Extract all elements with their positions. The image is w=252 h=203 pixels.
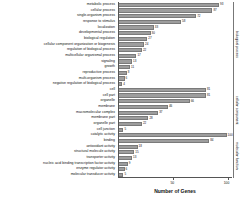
bar [118, 156, 132, 160]
bar-value-label: 13 [133, 60, 136, 63]
category-label: structural molecule activity [0, 150, 118, 154]
bar-value-label: 30 [152, 32, 155, 35]
bar [118, 48, 142, 52]
bar-value-label: 22 [143, 49, 146, 52]
bar-value-label: 13 [133, 156, 136, 159]
bar [118, 111, 158, 115]
bar [118, 150, 134, 154]
ontology-group: biological process [233, 2, 252, 87]
ontology-group-label: molecular function [235, 133, 238, 178]
bar-value-label: 11 [131, 66, 134, 69]
group-bracket-line [233, 2, 234, 87]
category-label: membrane [0, 105, 118, 109]
category-label: enzyme regulator activity [0, 167, 118, 171]
x-axis-tick-label: 100 [224, 181, 230, 185]
bar-value-label: 84 [210, 139, 213, 142]
category-label: multicellular organismal process [0, 54, 118, 58]
bar [118, 162, 128, 166]
category-label: cellular component organization or bioge… [0, 43, 118, 47]
category-label: cell [0, 88, 118, 92]
bar-value-label: 8 [128, 71, 130, 74]
bar [118, 122, 142, 126]
ontology-group: molecular function [233, 133, 252, 178]
group-bracket-line [233, 133, 234, 178]
bar-value-label: 5 [124, 173, 126, 176]
x-axis-tick-label: 50 [170, 181, 174, 185]
bar [118, 133, 227, 137]
bar-value-label: 66 [191, 100, 194, 103]
bar-value-label: 100 [228, 134, 233, 137]
category-label: molecular transducer activity [0, 173, 118, 177]
category-label: cell junction [0, 128, 118, 132]
bar [118, 128, 123, 132]
category-label: organelle [0, 99, 118, 103]
category-label: cell part [0, 94, 118, 98]
category-label: multi-organism process [0, 77, 118, 81]
bar [118, 20, 181, 24]
category-label: metabolic process [0, 3, 118, 7]
category-label: negative regulation of biological proces… [0, 82, 118, 86]
category-label: localization [0, 26, 118, 30]
bar-value-label: 15 [135, 151, 138, 154]
bar [118, 3, 219, 7]
plot-area: metabolic process93cellular process87sin… [0, 0, 252, 203]
bar [118, 59, 132, 63]
bar [118, 139, 209, 143]
bar-value-label: 72 [197, 15, 200, 18]
category-label: regulation of biological process [0, 48, 118, 52]
category-label: single-organism process [0, 14, 118, 18]
bar [118, 88, 206, 92]
bar-value-label: 4 [123, 83, 125, 86]
bar-value-label: 17 [137, 54, 140, 57]
category-label: response to stimulus [0, 20, 118, 24]
bar [118, 14, 196, 18]
bar [118, 116, 148, 120]
bar-value-label: 9 [129, 162, 131, 165]
category-label: growth [0, 65, 118, 69]
category-label: macromolecular complex [0, 111, 118, 115]
category-label: biological regulation [0, 37, 118, 41]
category-label: nucleic acid binding transcription facto… [0, 162, 118, 166]
category-label: antioxidant activity [0, 145, 118, 149]
bar [118, 173, 123, 177]
bar-value-label: 87 [213, 9, 216, 12]
bar-value-label: 46 [169, 105, 172, 108]
bar [118, 82, 122, 86]
bar-value-label: 6 [126, 168, 128, 171]
bar [118, 25, 154, 29]
category-label: cellular process [0, 9, 118, 13]
ontology-group-label: cellular component [235, 87, 238, 132]
go-term-bar-chart: metabolic process93cellular process87sin… [0, 0, 252, 203]
category-label: developmental process [0, 31, 118, 35]
bar-value-label: 33 [155, 26, 158, 29]
bar-value-label: 24 [145, 43, 148, 46]
category-label: membrane part [0, 116, 118, 120]
bar [118, 99, 190, 103]
bar-value-label: 5 [124, 128, 126, 131]
category-label: organelle part [0, 122, 118, 126]
bar [118, 8, 212, 12]
category-label: transporter activity [0, 156, 118, 160]
bar-rows: metabolic process93cellular process87sin… [0, 2, 232, 178]
bar [118, 42, 144, 46]
bar-cell: 5 [118, 172, 232, 178]
bar [118, 31, 151, 35]
bar [118, 71, 127, 75]
ontology-group-brackets: biological processcellular componentmole… [233, 2, 252, 178]
bar [118, 65, 130, 69]
category-label: reproductive process [0, 71, 118, 75]
bar-value-label: 22 [143, 122, 146, 125]
bar [118, 167, 125, 171]
bar [118, 76, 125, 80]
bar-value-label: 81 [207, 94, 210, 97]
bar [118, 145, 138, 149]
bar [118, 105, 168, 109]
bar [118, 93, 206, 97]
bar-value-label: 93 [220, 3, 223, 6]
ontology-group-label: biological process [235, 2, 238, 87]
bar-value-label: 81 [207, 88, 210, 91]
category-label: signaling [0, 60, 118, 64]
category-label: catalytic activity [0, 133, 118, 137]
bar-row: molecular transducer activity5 [0, 172, 232, 178]
bar-value-label: 27 [148, 37, 151, 40]
